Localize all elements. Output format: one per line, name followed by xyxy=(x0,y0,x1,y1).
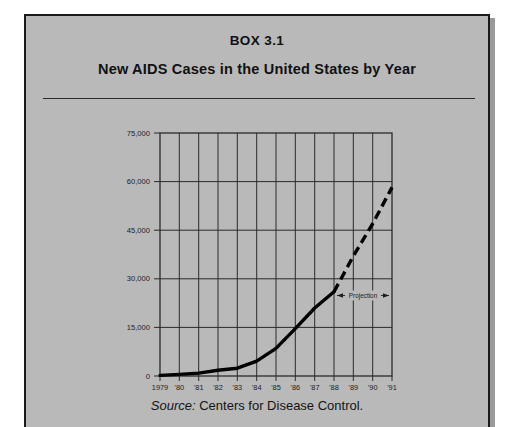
line-chart-svg: 75,000 60,000 45,000 30,000 15,000 0 xyxy=(26,111,488,411)
vertical-gridlines xyxy=(179,133,372,376)
chart-container: 75,000 60,000 45,000 30,000 15,000 0 xyxy=(26,111,488,411)
y-tick-label: 45,000 xyxy=(127,226,150,235)
projection-annotation: Projection xyxy=(337,291,389,301)
page-root: BOX 3.1 New AIDS Cases in the United Sta… xyxy=(0,0,513,427)
x-tick-label: '91 xyxy=(387,383,397,392)
y-axis-tick-labels: 75,000 60,000 45,000 30,000 15,000 0 xyxy=(127,129,150,381)
y-tick-label: 30,000 xyxy=(127,274,150,283)
box-number-title: BOX 3.1 xyxy=(26,33,488,48)
x-tick-label: '83 xyxy=(232,383,242,392)
x-tick-label: '81 xyxy=(194,383,204,392)
source-value: Centers for Disease Control. xyxy=(196,398,364,413)
x-tick-label: '82 xyxy=(213,383,223,392)
x-tick-label: '85 xyxy=(271,383,281,392)
projection-line xyxy=(334,187,392,291)
x-axis-tick-labels: 1979 '80 '81 '82 '83 '84 '85 '86 '87 '88… xyxy=(152,383,397,392)
reported-cases-line xyxy=(160,292,334,376)
y-tick-label: 15,000 xyxy=(127,323,150,332)
source-label: Source: xyxy=(151,398,196,413)
box-subtitle-title: New AIDS Cases in the United States by Y… xyxy=(26,61,488,77)
x-tick-label: '88 xyxy=(329,383,339,392)
figure-box: BOX 3.1 New AIDS Cases in the United Sta… xyxy=(24,14,490,427)
x-tick-label: 1979 xyxy=(152,383,168,392)
x-tick-label: '87 xyxy=(310,383,320,392)
x-tick-label: '80 xyxy=(174,383,184,392)
x-tick-marks xyxy=(160,376,392,381)
x-tick-label: '86 xyxy=(290,383,300,392)
title-divider-rule xyxy=(43,98,475,99)
x-tick-label: '84 xyxy=(252,383,262,392)
x-tick-label: '90 xyxy=(368,383,378,392)
x-tick-label: '89 xyxy=(348,383,358,392)
y-tick-label: 0 xyxy=(146,372,150,381)
y-tick-marks xyxy=(154,133,160,376)
y-tick-label: 75,000 xyxy=(127,129,150,138)
source-caption: Source: Centers for Disease Control. xyxy=(26,398,488,413)
projection-annotation-label: Projection xyxy=(349,292,378,300)
y-tick-label: 60,000 xyxy=(127,177,150,186)
